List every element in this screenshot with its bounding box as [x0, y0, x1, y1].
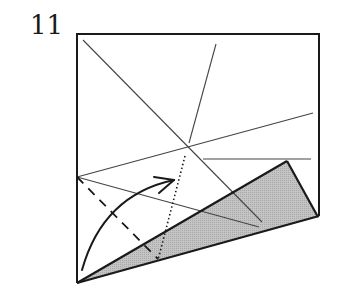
shaded-flap: [77, 161, 318, 283]
diagonal-crease: [83, 40, 262, 222]
origami-diagram: [0, 0, 349, 291]
upper-crease: [189, 44, 216, 143]
